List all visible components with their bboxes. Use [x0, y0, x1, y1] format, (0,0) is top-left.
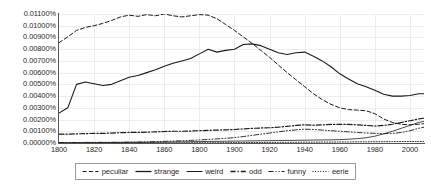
x-tick-label: 1900	[226, 146, 242, 153]
y-tick-label: 0.01100%	[24, 10, 56, 17]
legend-item-strange[interactable]: strange	[135, 168, 180, 176]
y-tick-label: 0.00200%	[23, 116, 56, 123]
series-lines	[59, 14, 424, 143]
legend-label: strange	[154, 168, 179, 176]
series-line-peculiar	[59, 14, 424, 125]
y-tick-label: 0.00900%	[23, 33, 56, 40]
x-tick-label: 1800	[191, 146, 207, 153]
chart-legend: peculiarstrangeweirdoddfunnyeerie	[75, 163, 356, 180]
ngram-chart: 0.01100%0.01000%0.00900%0.00800%0.00700%…	[0, 0, 431, 186]
y-tick-label: 0.01000%	[23, 22, 56, 29]
x-tick-label: 1860	[156, 146, 172, 153]
y-tick-label: 0.00300%	[23, 104, 56, 111]
y-tick-label: 0.00700%	[23, 57, 56, 64]
x-tick-label: 1820	[86, 146, 102, 153]
series-line-odd	[59, 118, 424, 134]
x-tick-label: 1920	[261, 146, 277, 153]
plot-area	[59, 14, 424, 143]
x-axis-line	[58, 143, 425, 144]
legend-item-odd[interactable]: odd	[230, 168, 262, 176]
legend-label: eerie	[332, 168, 349, 176]
y-tick-label: 0.00400%	[23, 92, 56, 99]
legend-label: funny	[288, 168, 307, 176]
legend-line-swatch-icon	[82, 168, 99, 175]
y-axis-tick-labels: 0.01100%0.01000%0.00900%0.00800%0.00700%…	[0, 0, 56, 186]
series-line-weird	[59, 121, 424, 142]
x-axis-tick-labels: 1800182018401860180019001920194019601980…	[0, 146, 431, 158]
legend-line-swatch-icon	[230, 168, 247, 175]
legend-line-swatch-icon	[135, 168, 152, 175]
x-tick-label: 1960	[332, 146, 348, 153]
x-tick-label: 1940	[297, 146, 313, 153]
x-tick-label: 2000	[402, 146, 418, 153]
y-tick-label: 0.00100%	[23, 127, 56, 134]
legend-label: weird	[205, 168, 223, 176]
x-tick-label: 1840	[121, 146, 137, 153]
legend-line-swatch-icon	[268, 168, 285, 175]
legend-label: peculiar	[102, 168, 129, 176]
legend-label: odd	[249, 168, 262, 176]
legend-line-swatch-icon	[312, 168, 329, 175]
x-tick-label: 1980	[367, 146, 383, 153]
y-axis-line	[58, 13, 59, 144]
series-line-strange	[59, 44, 424, 113]
y-tick-label: 0.00600%	[23, 69, 56, 76]
y-tick-label: 0.00500%	[23, 80, 56, 87]
legend-item-peculiar[interactable]: peculiar	[82, 168, 128, 176]
legend-item-weird[interactable]: weird	[186, 168, 224, 176]
legend-item-eerie[interactable]: eerie	[312, 168, 348, 176]
legend-item-funny[interactable]: funny	[268, 168, 306, 176]
legend-line-swatch-icon	[186, 168, 203, 175]
y-tick-label: 0.00800%	[23, 45, 56, 52]
x-tick-label: 1800	[51, 146, 67, 153]
